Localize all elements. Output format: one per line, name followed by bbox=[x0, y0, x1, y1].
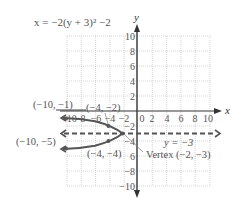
svg-text:8: 8 bbox=[193, 113, 198, 124]
svg-text:8: 8 bbox=[130, 46, 135, 57]
point-m10-m1 bbox=[64, 117, 68, 121]
y-axis-label: y bbox=[133, 11, 139, 23]
point-label-m10-m1: (−10, −1) bbox=[33, 99, 73, 111]
svg-text:6: 6 bbox=[179, 113, 184, 124]
point-m10-m5 bbox=[64, 147, 68, 151]
svg-text:2: 2 bbox=[150, 113, 155, 124]
svg-text:10: 10 bbox=[203, 113, 213, 124]
point-label-m4-m2: (−4, −2) bbox=[86, 102, 121, 114]
parabola-graph: x y 10 8 6 4 2 −2 −4 6 −8 −10 −10 8 −6 −… bbox=[0, 0, 242, 214]
symmetry-line bbox=[61, 130, 220, 137]
vertex-label: Vertex (−2, −3) bbox=[146, 149, 211, 161]
x-axis-label: x bbox=[224, 104, 230, 116]
svg-text:6: 6 bbox=[130, 61, 135, 72]
svg-text:−10: −10 bbox=[119, 181, 135, 192]
vertex-point bbox=[121, 132, 125, 136]
point-m4-m2 bbox=[106, 124, 110, 128]
svg-text:−4: −4 bbox=[124, 136, 135, 147]
arrow-right-icon bbox=[215, 130, 220, 137]
x-axis-arrow-icon bbox=[214, 108, 222, 114]
point-label-m10-m5: (−10, −5) bbox=[16, 136, 56, 148]
symmetry-line-label: y = −3 bbox=[163, 137, 193, 148]
svg-text:6: 6 bbox=[130, 151, 135, 162]
svg-text:−2: −2 bbox=[119, 113, 130, 124]
svg-text:4: 4 bbox=[130, 76, 135, 87]
point-label-m4-m4: (−4, −4) bbox=[87, 148, 122, 160]
svg-text:−8: −8 bbox=[124, 166, 135, 177]
svg-text:10: 10 bbox=[125, 31, 135, 42]
svg-text:0: 0 bbox=[140, 113, 145, 124]
point-m4-m4 bbox=[106, 139, 110, 143]
equation-label: x = −2(y + 3)² −2 bbox=[34, 16, 111, 29]
svg-text:2: 2 bbox=[130, 91, 135, 102]
svg-text:4: 4 bbox=[165, 113, 170, 124]
